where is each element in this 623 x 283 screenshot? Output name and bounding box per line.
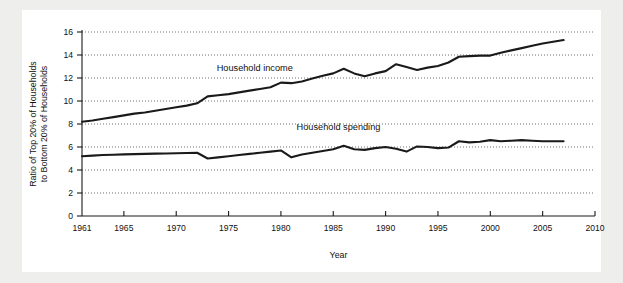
y-tick-label-4: 4 xyxy=(68,165,73,175)
series-line-household-spending xyxy=(82,140,564,158)
x-tick-label-2000: 2000 xyxy=(481,223,500,233)
x-tick-label-1995: 1995 xyxy=(428,223,447,233)
x-tick-label-1985: 1985 xyxy=(324,223,343,233)
y-tick-label-6: 6 xyxy=(68,142,73,152)
y-tick-label-16: 16 xyxy=(63,27,73,37)
data-series xyxy=(82,40,564,158)
x-tick-label-1961: 1961 xyxy=(72,223,91,233)
series-line-household-income xyxy=(82,40,564,122)
y-tick-label-2: 2 xyxy=(68,188,73,198)
y-tick-label-10: 10 xyxy=(63,96,73,106)
x-tick-label-1970: 1970 xyxy=(167,223,186,233)
annotation-household-income: Household income xyxy=(217,63,293,73)
x-tick-label-1990: 1990 xyxy=(376,223,395,233)
x-tick-label-1965: 1965 xyxy=(114,223,133,233)
x-tick-label-1980: 1980 xyxy=(271,223,290,233)
y-axis-ticks: 0246810121416 xyxy=(63,27,82,221)
x-tick-label-2010: 2010 xyxy=(585,223,604,233)
x-tick-label-2005: 2005 xyxy=(533,223,552,233)
annotation-household-spending: Household spending xyxy=(297,122,381,132)
y-tick-label-14: 14 xyxy=(63,50,73,60)
y-axis-title-line1: Ratio of Top 20% of Households xyxy=(28,61,38,187)
y-tick-label-8: 8 xyxy=(68,119,73,129)
y-tick-label-12: 12 xyxy=(63,73,73,83)
figure-canvas: 1961196519701975198019851990199520002005… xyxy=(0,0,623,283)
line-chart: 1961196519701975198019851990199520002005… xyxy=(0,0,623,283)
y-axis-title-line2: to Bottom 20% of Households xyxy=(39,65,49,182)
y-tick-label-0: 0 xyxy=(68,211,73,221)
x-tick-label-1975: 1975 xyxy=(219,223,238,233)
x-axis-ticks: 1961196519701975198019851990199520002005… xyxy=(72,211,604,233)
gridlines xyxy=(82,32,595,193)
x-axis-title: Year xyxy=(330,250,348,260)
